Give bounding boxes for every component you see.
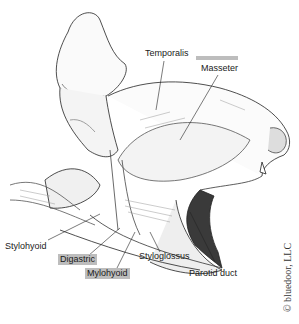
label-masseter: Masseter xyxy=(201,63,238,74)
copyright-notice: © bluedoor, LLC xyxy=(282,243,293,312)
label-mylohyoid: Mylohyoid xyxy=(85,268,130,279)
label-styloglossus: Styloglossus xyxy=(139,251,190,262)
masseter-highlight-strip xyxy=(196,56,238,60)
label-parotid-duct: Parotid duct xyxy=(189,268,237,279)
label-stylohyoid: Stylohyoid xyxy=(5,241,47,252)
label-temporalis: Temporalis xyxy=(145,48,189,59)
ear-shape xyxy=(56,13,126,98)
masseter-shape xyxy=(118,123,250,182)
label-digastric: Digastric xyxy=(58,254,97,265)
